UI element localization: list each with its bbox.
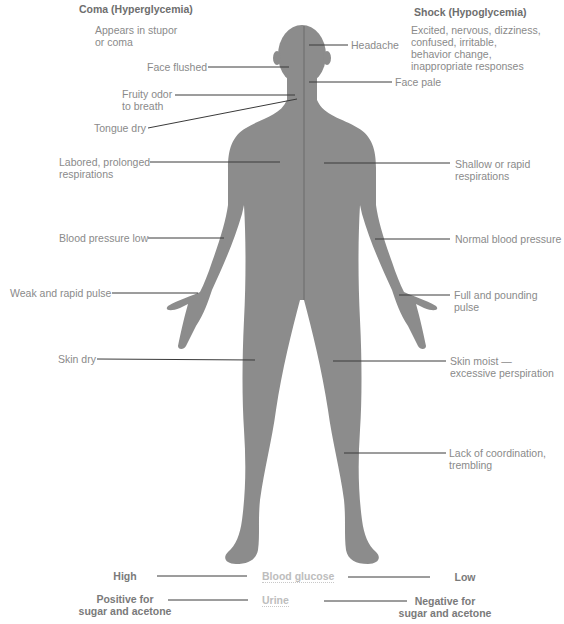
blood-glucose-high: High [105,570,145,582]
shock-general-appearance: Excited, nervous, dizziness, confused, i… [411,24,541,72]
shock-hypoglycemia-title: Shock (Hypoglycemia) [414,6,527,18]
sign-full-pounding-pulse: Full and pounding pulse [454,289,564,313]
sign-tongue-dry: Tongue dry [94,122,146,134]
urine-label: Urine [262,594,289,607]
sign-normal-blood-pressure: Normal blood pressure [455,233,561,245]
sign-blood-pressure-low: Blood pressure low [59,232,148,244]
sign-lack-of-coordination: Lack of coordination, trembling [449,447,546,471]
sign-face-flushed: Face flushed [147,61,207,73]
sign-skin-dry: Skin dry [58,353,96,365]
coma-general-appearance: Appears in stupor or coma [95,24,177,48]
sign-fruity-odor: Fruity odor to breath [122,88,172,112]
blood-glucose-low: Low [445,571,485,583]
blood-glucose-label: Blood glucose [262,570,334,583]
sign-skin-moist: Skin moist — excessive perspiration [450,355,554,379]
sign-headache: Headache [351,39,399,51]
diabetic-coma-vs-insulin-shock-diagram: Coma (Hyperglycemia) Appears in stupor o… [0,0,564,624]
urine-negative: Negative for sugar and acetone [380,595,510,619]
sign-labored-respirations: Labored, prolonged respirations [59,156,150,180]
urine-positive: Positive for sugar and acetone [70,593,180,617]
sign-shallow-rapid-respirations: Shallow or rapid respirations [455,158,530,182]
sign-face-pale: Face pale [395,76,441,88]
coma-hyperglycemia-title: Coma (Hyperglycemia) [79,3,193,15]
sign-weak-rapid-pulse: Weak and rapid pulse [10,287,111,299]
